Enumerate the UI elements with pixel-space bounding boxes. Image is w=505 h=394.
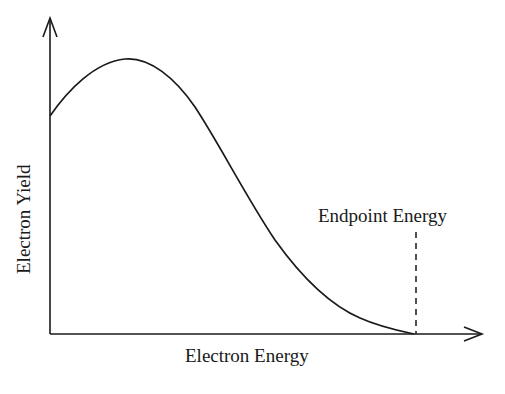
- annotation-endpoint-energy: Endpoint Energy: [318, 205, 447, 226]
- x-axis-label: Electron Energy: [185, 345, 309, 366]
- spectrum-curve: [50, 59, 414, 334]
- y-axis-label: Electron Yield: [13, 164, 34, 274]
- spectrum-diagram: Endpoint Energy Electron Energy Electron…: [0, 0, 505, 394]
